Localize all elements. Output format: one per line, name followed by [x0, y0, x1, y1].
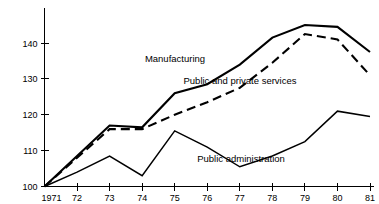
x-tick-label: 80	[332, 193, 342, 203]
x-tick-label: 77	[235, 193, 245, 203]
x-tick-label: 81	[365, 193, 375, 203]
x-tick-label: 78	[267, 193, 277, 203]
x-tick-label: 1971	[41, 193, 61, 203]
series-label-manufacturing: Manufacturing	[145, 53, 205, 64]
series-label-public-and-private-services: Public and private services	[184, 75, 297, 86]
y-tick-label: 100	[22, 182, 37, 192]
y-tick-label: 140	[22, 39, 37, 49]
y-tick-label: 120	[22, 110, 37, 120]
x-axis-ticks: 197172737475767778798081	[41, 183, 375, 203]
series-label-public-administration: Public administration	[197, 153, 285, 164]
x-tick-label: 79	[300, 193, 310, 203]
line-chart: 100110120130140 197172737475767778798081…	[0, 0, 379, 204]
y-tick-label: 110	[23, 146, 37, 156]
chart-container: 100110120130140 197172737475767778798081…	[0, 0, 379, 204]
x-tick-label: 74	[137, 193, 147, 203]
x-tick-label: 72	[72, 193, 82, 203]
x-tick-label: 76	[202, 193, 212, 203]
x-tick-label: 73	[105, 193, 115, 203]
y-tick-label: 130	[22, 74, 37, 84]
series-label-layer: ManufacturingPublic and private services…	[145, 53, 297, 164]
series-line-public-administration	[45, 111, 371, 186]
x-tick-label: 75	[170, 193, 180, 203]
